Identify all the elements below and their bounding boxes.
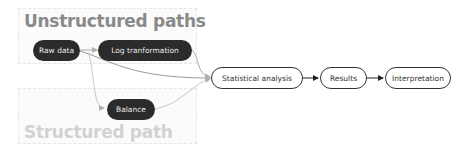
edge-raw-to-balance [88,52,104,108]
node-log-transformation[interactable]: Log tranformation [98,40,192,61]
node-results[interactable]: Results [320,67,367,89]
node-interpretation[interactable]: Interpretation [385,67,451,89]
edge-log-to-stats [190,49,210,77]
node-raw-data[interactable]: Raw data [33,40,80,61]
edge-balance-to-stats [155,79,210,109]
node-balance[interactable]: Balance [107,99,155,120]
node-statistical-analysis[interactable]: Statistical analysis [211,67,303,89]
